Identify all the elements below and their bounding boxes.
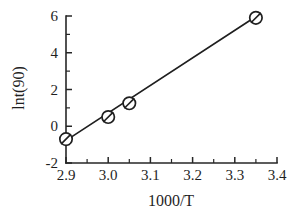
data-point bbox=[250, 12, 262, 24]
data-point bbox=[123, 97, 135, 109]
chart-canvas: -20246 2.93.03.13.23.33.4 1000/T lnt(90) bbox=[0, 0, 300, 220]
x-tick-label: 2.9 bbox=[57, 167, 76, 183]
y-axis-title: lnt(90) bbox=[10, 66, 28, 110]
arrhenius-plot-figure: -20246 2.93.03.13.23.33.4 1000/T lnt(90) bbox=[0, 0, 300, 220]
x-tick-label: 3.1 bbox=[141, 167, 160, 183]
x-tick-label: 3.0 bbox=[99, 167, 118, 183]
trend-line bbox=[64, 16, 257, 142]
data-point bbox=[60, 133, 72, 145]
linear-fit-line bbox=[64, 16, 257, 142]
axes bbox=[66, 16, 277, 163]
y-tick-label: 6 bbox=[51, 8, 59, 24]
y-tick-label: 2 bbox=[51, 82, 59, 98]
x-tick-label: 3.2 bbox=[183, 167, 202, 183]
y-tick-label: 0 bbox=[51, 118, 59, 134]
y-axis-tick-labels: -20246 bbox=[46, 8, 59, 171]
y-tick-label: 4 bbox=[51, 45, 59, 61]
x-tick-label: 3.4 bbox=[268, 167, 287, 183]
x-axis-title: 1000/T bbox=[148, 192, 194, 209]
data-point bbox=[102, 111, 114, 123]
x-axis-tick-labels: 2.93.03.13.23.33.4 bbox=[57, 167, 287, 183]
x-tick-label: 3.3 bbox=[225, 167, 244, 183]
